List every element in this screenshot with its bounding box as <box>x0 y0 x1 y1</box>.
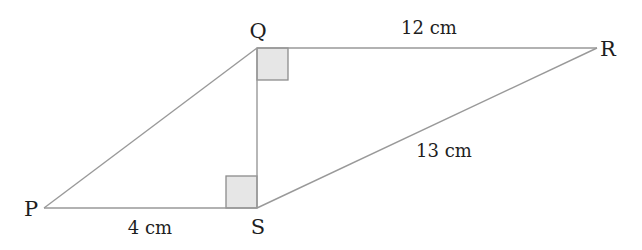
vertex-label-p: P <box>24 197 38 221</box>
length-label-ps: 4 cm <box>128 217 172 238</box>
vertex-label-s: S <box>251 215 265 239</box>
segment-rs <box>257 48 597 208</box>
segment-pq <box>44 48 257 208</box>
vertex-label-q: Q <box>249 19 266 43</box>
vertex-label-r: R <box>600 37 617 61</box>
geometry-diagram: Q R P S 12 cm 13 cm 4 cm <box>0 0 642 250</box>
length-label-qr: 12 cm <box>401 17 457 38</box>
right-angle-marker-s <box>226 176 257 208</box>
right-angle-marker-q <box>257 48 288 80</box>
length-label-rs: 13 cm <box>416 140 472 161</box>
